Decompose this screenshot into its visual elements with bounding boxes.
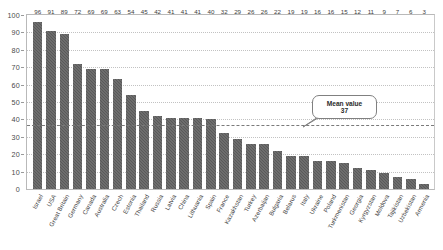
x-tick: Great Britain xyxy=(58,191,71,250)
x-tick: Kyrgyzstan xyxy=(364,191,377,250)
y-tick-label: 100 xyxy=(7,11,20,20)
y-tick-label: 80 xyxy=(12,45,20,54)
x-axis: IsraelUSAGreat BritainGermanyCanadaAustr… xyxy=(27,191,434,250)
bar-group: 29 xyxy=(231,15,244,189)
x-tick-label: USA xyxy=(45,193,57,208)
bar-group: 9 xyxy=(378,15,391,189)
bar: 19 xyxy=(286,156,296,189)
bar-group: 6 xyxy=(404,15,417,189)
bar-group: 40 xyxy=(204,15,217,189)
mean-reference-line xyxy=(27,125,434,126)
bar-group: 3 xyxy=(418,15,431,189)
y-tick-mark xyxy=(21,172,24,173)
bar-group: 41 xyxy=(191,15,204,189)
bar-group: 32 xyxy=(218,15,231,189)
bar-group: 91 xyxy=(44,15,57,189)
mean-callout-value: 37 xyxy=(341,107,348,114)
bar: 91 xyxy=(46,31,56,189)
x-tick: Estonia xyxy=(124,191,137,250)
bar: 26 xyxy=(259,144,269,189)
bar: 32 xyxy=(219,133,229,189)
bar-value-label: 19 xyxy=(301,8,308,15)
y-tick-mark xyxy=(21,85,24,86)
x-tick: Azerbaijan xyxy=(258,191,271,250)
bar: 16 xyxy=(313,161,323,189)
y-tick-mark xyxy=(21,32,24,33)
bar-value-label: 72 xyxy=(74,8,81,15)
x-tick: Armenia xyxy=(418,191,431,250)
bar-group: 63 xyxy=(111,15,124,189)
bar-value-label: 45 xyxy=(141,8,148,15)
bar: 22 xyxy=(273,151,283,189)
bar-value-label: 7 xyxy=(396,8,399,15)
bar-value-label: 41 xyxy=(167,8,174,15)
bar: 96 xyxy=(33,22,43,189)
bar: 3 xyxy=(419,184,429,189)
bar-value-label: 41 xyxy=(194,8,201,15)
bar-value-label: 9 xyxy=(382,8,385,15)
bar: 12 xyxy=(353,168,363,189)
y-tick-mark xyxy=(21,154,24,155)
bar-group: 41 xyxy=(178,15,191,189)
y-tick-label: 70 xyxy=(12,63,20,72)
bar-group: 96 xyxy=(31,15,44,189)
bar: 72 xyxy=(73,64,83,189)
bar: 16 xyxy=(326,161,336,189)
x-tick: Bulgaria xyxy=(271,191,284,250)
x-tick: Moldova xyxy=(378,191,391,250)
bar-value-label: 22 xyxy=(274,8,281,15)
x-tick-label: Russia xyxy=(149,193,164,213)
x-tick: Spain xyxy=(204,191,217,250)
bar-value-label: 63 xyxy=(114,8,121,15)
x-tick: Italy xyxy=(298,191,311,250)
bar: 26 xyxy=(246,144,256,189)
x-tick: Czech xyxy=(111,191,124,250)
bar-group: 72 xyxy=(71,15,84,189)
bar-group: 42 xyxy=(151,15,164,189)
bar-value-label: 12 xyxy=(354,8,361,15)
bar-value-label: 69 xyxy=(88,8,95,15)
bar-group: 7 xyxy=(391,15,404,189)
bar: 6 xyxy=(406,179,416,189)
x-tick: Israel xyxy=(31,191,44,250)
y-tick-label: 90 xyxy=(12,28,20,37)
bar-value-label: 16 xyxy=(327,8,334,15)
mean-value-callout: Mean value 37 xyxy=(312,95,377,119)
x-tick-label: Belarus xyxy=(281,193,297,215)
y-tick-mark xyxy=(21,137,24,138)
x-tick-label: Israel xyxy=(30,193,43,210)
bar-group: 89 xyxy=(58,15,71,189)
bar-value-label: 19 xyxy=(287,8,294,15)
y-tick-label: 60 xyxy=(12,80,20,89)
bar-value-label: 16 xyxy=(314,8,321,15)
x-tick: Canada xyxy=(84,191,97,250)
x-tick: Australia xyxy=(98,191,111,250)
bar-group: 45 xyxy=(138,15,151,189)
y-tick-mark xyxy=(21,15,24,16)
bar-value-label: 32 xyxy=(221,8,228,15)
bar: 15 xyxy=(339,163,349,189)
bar-group: 19 xyxy=(284,15,297,189)
bar: 45 xyxy=(139,111,149,189)
bar-value-label: 96 xyxy=(34,8,41,15)
bar-value-label: 40 xyxy=(207,8,214,15)
x-tick: Uzbekistan xyxy=(404,191,417,250)
bar-value-label: 15 xyxy=(341,8,348,15)
x-tick: Lithuania xyxy=(191,191,204,250)
x-tick: China xyxy=(178,191,191,250)
bar-value-label: 54 xyxy=(128,8,135,15)
bar: 40 xyxy=(206,119,216,189)
y-tick-label: 30 xyxy=(12,132,20,141)
y-tick-mark xyxy=(21,102,24,103)
y-tick-label: 10 xyxy=(12,167,20,176)
y-tick-mark xyxy=(21,50,24,51)
bar-value-label: 41 xyxy=(181,8,188,15)
bar-group: 41 xyxy=(164,15,177,189)
bar: 41 xyxy=(166,118,176,189)
bar: 9 xyxy=(379,173,389,189)
bar: 63 xyxy=(113,79,123,189)
x-tick: Belarus xyxy=(284,191,297,250)
y-tick-mark xyxy=(21,67,24,68)
bar-group: 26 xyxy=(244,15,257,189)
bar-value-label: 69 xyxy=(101,8,108,15)
